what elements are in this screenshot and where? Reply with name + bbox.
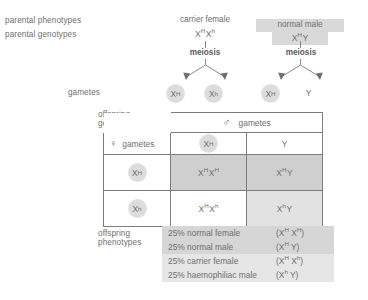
punnett-col-header-1-bubble: XH	[199, 134, 218, 153]
phenotype-row-4-percent: 25% haemophiliac male	[162, 270, 276, 280]
male-meiosis-fork	[273, 59, 329, 83]
punnett-row-header-1: XH	[104, 155, 171, 191]
phenotype-row-1-genotype: (XH XH)	[276, 228, 330, 238]
phenotype-row-3-percent: 25% carrier female	[162, 256, 276, 266]
punnett-cell-r2c1: XH Xh	[171, 191, 247, 227]
punnett-row-header-1-bubble: XH	[128, 163, 147, 182]
phenotype-row-2-genotype: (XH Y)	[276, 242, 330, 252]
male-genotype-sup1: H	[297, 31, 301, 38]
phenotype-row-1-percent: 25% normal female	[162, 228, 276, 238]
male-genotype-allele2: Y	[303, 33, 309, 43]
punnett-row-header-1-symbol: X	[132, 168, 138, 178]
phenotype-row-4: 25% haemophiliac male (Xh Y)	[162, 268, 334, 282]
punnett-male-gametes-header: ♂ gametes	[171, 113, 323, 133]
offspring-phenotypes-list: 25% normal female (XH XH) 25% normal mal…	[162, 226, 334, 282]
phenotype-row-1: 25% normal female (XH XH)	[162, 226, 334, 240]
punnett-row-1: XH XH XH XH Y	[104, 155, 323, 191]
punnett-male-header-label: gametes	[239, 118, 271, 128]
punnett-row-header-2-bubble: Xh	[128, 199, 147, 218]
phenotype-row-3-genotype: (XH Xh)	[276, 256, 330, 266]
female-meiosis-label: meiosis	[162, 48, 248, 57]
punnett-female-gametes-header: ♀ gametes	[104, 133, 171, 155]
female-gamete-2: Xh	[204, 84, 223, 103]
male-gamete-1: XH	[261, 84, 280, 103]
male-gamete-2: Y	[299, 84, 318, 103]
male-meiosis-label: meiosis	[262, 48, 340, 57]
female-genotype-sup2: h	[212, 27, 215, 34]
female-parent-phenotype: carrier female	[162, 15, 248, 25]
punnett-cell-r1c1-text: XH XH	[198, 168, 219, 178]
male-meiosis-stem	[300, 41, 301, 48]
female-genotype-sup1: H	[201, 27, 205, 34]
punnett-female-header-label: gametes	[122, 139, 154, 149]
punnett-col-header-2-symbol: Y	[282, 139, 288, 149]
punnett-cell-r2c2-text: Xh Y	[277, 204, 292, 214]
punnett-col-header-1: XH	[171, 133, 247, 155]
phenotype-row-2-percent: 25% normal male	[162, 242, 276, 252]
female-gamete-1: XH	[166, 84, 185, 103]
punnett-cell-r2c1-text: XH Xh	[199, 204, 219, 214]
female-gamete-2-symbol: X	[209, 89, 215, 99]
phenotype-row-2: 25% normal male (XH Y)	[162, 240, 334, 254]
punnett-header-row-male: ♂ gametes	[104, 113, 323, 133]
female-parent-genotype: XH Xh	[162, 29, 248, 39]
label-gametes: gametes	[68, 88, 100, 98]
punnett-header-row-columns: ♀ gametes XH Y	[104, 133, 323, 155]
phenotype-row-3: 25% carrier female (XH Xh)	[162, 254, 334, 268]
punnett-row-2: Xh XH Xh Xh Y	[104, 191, 323, 227]
female-meiosis-fork	[178, 59, 234, 83]
punnett-square-table: ♂ gametes ♀ gametes XH Y	[103, 112, 323, 227]
punnett-cell-r2c2: Xh Y	[247, 191, 323, 227]
punnett-corner-blank	[104, 113, 171, 133]
male-gamete-2-symbol: Y	[306, 88, 312, 98]
punnett-cell-r1c2-text: XH Y	[276, 168, 292, 178]
label-parental-genotypes: parental genotypes	[5, 30, 76, 40]
mars-icon: ♂	[222, 117, 230, 128]
punnett-cell-r1c2: XH Y	[247, 155, 323, 191]
venus-icon: ♀	[109, 138, 117, 149]
phenotype-row-4-genotype: (Xh Y)	[276, 270, 330, 280]
punnett-col-header-2: Y	[247, 133, 323, 155]
punnett-cell-r1c1: XH XH	[171, 155, 247, 191]
label-offspring-phenotypes-line2: phenotypes	[98, 238, 141, 248]
label-parental-phenotypes: parental phenotypes	[5, 16, 81, 26]
female-meiosis-stem	[205, 41, 206, 48]
punnett-row-header-2: Xh	[104, 191, 171, 227]
